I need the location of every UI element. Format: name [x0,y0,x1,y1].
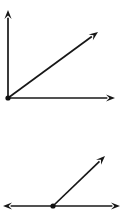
figure-bottom [3,156,120,210]
figure-top-vertical-ray [4,10,11,98]
figure-top [4,10,115,102]
figure-bottom-vertex-point [50,203,55,208]
figure-top-horizontal-ray [8,94,115,101]
figure-top-vertex-point [5,95,10,100]
figure-top-diagonal-ray-line [8,37,92,98]
figure-top-diagonal-ray [8,32,98,98]
figure-bottom-horizontal-line-right-end [53,202,120,209]
figure-bottom-diagonal-ray-line [53,161,99,206]
figure-bottom-horizontal-line-left-end [3,202,53,209]
angle-diagram-sheet [0,0,124,215]
angle-diagram-canvas [0,0,124,215]
figure-bottom-diagonal-ray [53,156,105,206]
figure-top-diagonal-ray-arrowhead-icon [89,32,98,40]
